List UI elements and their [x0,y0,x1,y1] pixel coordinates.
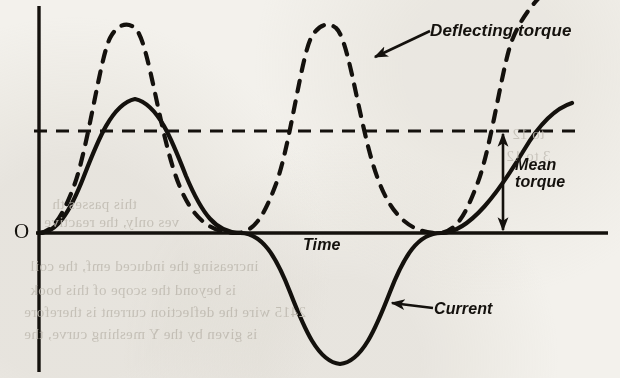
time-axis-label: Time [303,236,340,253]
mean-torque-label-line2: torque [515,173,565,190]
mean-torque-label-line1: Mean [515,156,565,173]
deflecting-torque-pointer-arrow [375,31,430,57]
deflecting-torque-label: Deflecting torque [430,22,572,40]
current-pointer-arrow [392,303,433,308]
current-label: Current [434,300,492,317]
mean-torque-label: Mean torque [515,156,565,191]
origin-label: O [14,219,29,244]
